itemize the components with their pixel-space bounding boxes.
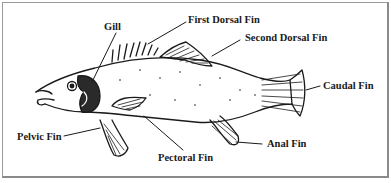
label-caudal-fin: Caudal Fin <box>323 81 373 92</box>
label-pelvic-fin: Pelvic Fin <box>17 132 62 143</box>
second-dorsal-leader <box>212 40 240 56</box>
label-gill: Gill <box>104 22 121 33</box>
label-first-dorsal-fin: First Dorsal Fin <box>188 15 260 26</box>
anal-leader <box>236 142 262 144</box>
caudal-fin <box>290 70 305 116</box>
fish-mouth <box>36 91 54 105</box>
caudal-leader <box>306 86 320 90</box>
label-pectoral-fin: Pectoral Fin <box>158 153 213 164</box>
pectoral-leader <box>144 116 183 150</box>
gill-cover <box>77 76 100 113</box>
label-second-dorsal-fin: Second Dorsal Fin <box>245 33 327 44</box>
label-anal-fin: Anal Fin <box>267 139 306 150</box>
first-dorsal-fin-spines <box>112 42 158 62</box>
pelvic-leader <box>64 128 100 136</box>
first-dorsal-leader <box>148 22 186 44</box>
